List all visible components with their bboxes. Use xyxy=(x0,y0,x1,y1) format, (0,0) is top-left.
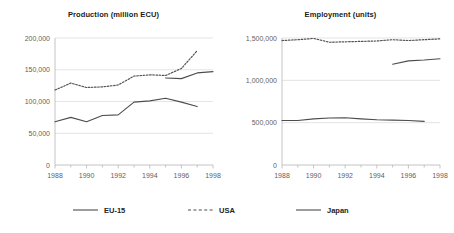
x-tick-label: 1992 xyxy=(337,172,353,179)
x-tick-label: 1996 xyxy=(401,172,417,179)
legend-label-eu-15: EU-15 xyxy=(104,206,125,215)
chart-page: Production (million ECU) 050,000100,0001… xyxy=(0,0,454,233)
x-tick-label: 1988 xyxy=(274,172,290,179)
y-tick-label: 50,000 xyxy=(29,130,51,137)
y-tick-label: 1,000,000 xyxy=(246,77,277,84)
series-line-japan xyxy=(55,98,197,121)
charts-row: Production (million ECU) 050,000100,0001… xyxy=(0,0,454,192)
x-tick-label: 1998 xyxy=(432,172,448,179)
chart-panel-employment: Employment (units) 0500,0001,000,0001,50… xyxy=(227,0,454,192)
x-tick-label: 1990 xyxy=(79,172,95,179)
chart-panel-production: Production (million ECU) 050,000100,0001… xyxy=(0,0,227,192)
x-tick-label: 1988 xyxy=(47,172,63,179)
x-tick-label: 1990 xyxy=(306,172,322,179)
y-tick-label: 200,000 xyxy=(25,35,50,42)
x-tick-label: 1996 xyxy=(174,172,190,179)
x-tick-label: 1994 xyxy=(369,172,385,179)
x-tick-label: 1992 xyxy=(110,172,126,179)
legend-swatches: EU-15USAJapan xyxy=(0,196,454,233)
legend-label-usa: USA xyxy=(219,206,235,215)
y-tick-label: 1,500,000 xyxy=(246,35,277,42)
x-tick-label: 1998 xyxy=(205,172,221,179)
y-tick-label: 150,000 xyxy=(25,66,50,73)
series-line-japan xyxy=(282,118,424,122)
series-line-eu-15 xyxy=(393,59,440,65)
y-tick-label: 0 xyxy=(273,162,277,169)
series-line-usa xyxy=(282,38,440,42)
y-tick-label: 500,000 xyxy=(252,119,277,126)
legend-label-japan: Japan xyxy=(327,206,349,215)
chart-legend: EU-15USAJapan xyxy=(0,196,454,233)
plot-area-employment: 0500,0001,000,0001,500,00019881990199219… xyxy=(227,0,454,192)
y-tick-label: 100,000 xyxy=(25,98,50,105)
y-tick-label: 0 xyxy=(46,162,50,169)
x-tick-label: 1994 xyxy=(142,172,158,179)
series-line-usa xyxy=(55,51,197,90)
plot-area-production: 050,000100,000150,000200,000198819901992… xyxy=(0,0,227,192)
